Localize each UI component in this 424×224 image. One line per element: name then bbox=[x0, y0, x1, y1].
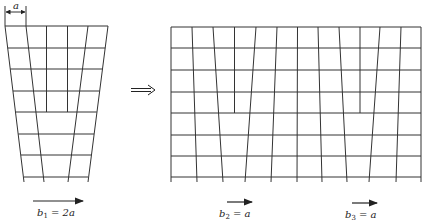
b2-equals: = a bbox=[233, 208, 251, 219]
left-lattice bbox=[5, 6, 108, 182]
b1-subscript: 1 bbox=[43, 212, 47, 220]
dimension-label-a: a bbox=[13, 1, 19, 11]
b1-equals: = 2a bbox=[51, 207, 75, 218]
b3-equals: = a bbox=[359, 209, 377, 220]
b3-subscript: 3 bbox=[351, 214, 355, 222]
burgers-vector-b3-label: b3 = a bbox=[345, 210, 377, 222]
burgers-vector-b1-label: b1 = 2a bbox=[37, 208, 75, 220]
burgers-vector-b2-label: b2 = a bbox=[219, 209, 251, 221]
dislocation-diagram bbox=[0, 0, 424, 224]
b2-subscript: 2 bbox=[225, 213, 229, 221]
right-lattice bbox=[171, 27, 421, 182]
double-arrow-icon bbox=[131, 85, 155, 95]
